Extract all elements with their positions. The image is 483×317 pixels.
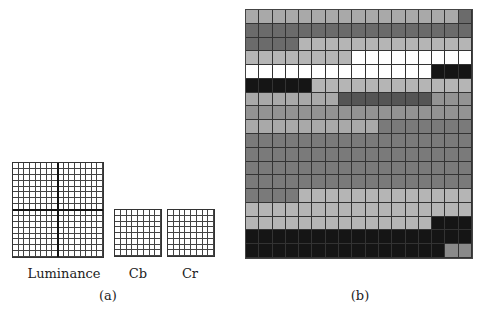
block-cell (273, 79, 286, 93)
block-cell (419, 217, 432, 231)
block-cell (432, 230, 445, 244)
block-cell (326, 217, 339, 231)
block-cell (406, 24, 419, 38)
cr-label: Cr (182, 266, 198, 281)
block-cell (339, 244, 352, 258)
block-cell (326, 230, 339, 244)
block-cell (286, 10, 299, 24)
block-cell (246, 24, 259, 38)
block-cell (339, 93, 352, 107)
block-cell (366, 230, 379, 244)
block-cell (379, 148, 392, 162)
block-cell (406, 230, 419, 244)
block-cell (379, 38, 392, 52)
block-cell (445, 203, 458, 217)
block-cell (459, 65, 472, 79)
block-cell (419, 10, 432, 24)
block-cell (259, 38, 272, 52)
block-cell (366, 93, 379, 107)
block-cell (246, 217, 259, 231)
block-cell (406, 79, 419, 93)
block-cell (259, 148, 272, 162)
block-cell (312, 230, 325, 244)
block-cell (392, 120, 405, 134)
block-cell (286, 175, 299, 189)
block-cell (312, 24, 325, 38)
block-cell (366, 162, 379, 176)
panel-b-caption: (b) (351, 288, 369, 303)
block-cell (406, 148, 419, 162)
block-cell (339, 106, 352, 120)
block-cell (406, 10, 419, 24)
block-cell (286, 24, 299, 38)
block-cell (352, 120, 365, 134)
block-cell (459, 134, 472, 148)
block-cell (246, 244, 259, 258)
block-cell (352, 244, 365, 258)
block-cell (379, 189, 392, 203)
block-cell (326, 244, 339, 258)
block-cell (273, 120, 286, 134)
block-cell (445, 244, 458, 258)
block-cell (339, 175, 352, 189)
block-cell (459, 217, 472, 231)
block-cell (286, 51, 299, 65)
block-cell (459, 24, 472, 38)
block-cell (419, 51, 432, 65)
block-cell (445, 120, 458, 134)
block-cell (286, 244, 299, 258)
block-cell (419, 162, 432, 176)
block-cell (432, 134, 445, 148)
block-cell (246, 162, 259, 176)
block-cell (246, 203, 259, 217)
block-cell (392, 10, 405, 24)
luminance-label: Luminance (28, 266, 101, 281)
block-cell (432, 217, 445, 231)
block-cell (259, 217, 272, 231)
block-cell (326, 148, 339, 162)
block-cell (445, 65, 458, 79)
block-cell (432, 93, 445, 107)
block-cell (339, 230, 352, 244)
block-cell (366, 134, 379, 148)
block-cell (273, 93, 286, 107)
block-cell (299, 106, 312, 120)
block-cell (246, 51, 259, 65)
block-cell (326, 175, 339, 189)
block-cell (392, 217, 405, 231)
block-cell (286, 79, 299, 93)
block-cell (352, 106, 365, 120)
block-cell (406, 189, 419, 203)
block-cell (392, 230, 405, 244)
block-cell (392, 134, 405, 148)
block-cell (445, 189, 458, 203)
block-cell (352, 203, 365, 217)
block-cell (459, 162, 472, 176)
block-cell (432, 120, 445, 134)
block-cell (366, 148, 379, 162)
block-cell (379, 51, 392, 65)
block-cell (419, 189, 432, 203)
block-cell (259, 230, 272, 244)
block-cell (392, 24, 405, 38)
block-cell (326, 189, 339, 203)
block-cell (286, 120, 299, 134)
block-cell (299, 24, 312, 38)
block-cell (352, 38, 365, 52)
block-cell (286, 189, 299, 203)
block-cell (459, 79, 472, 93)
block-cell (432, 148, 445, 162)
block-cell (406, 38, 419, 52)
block-cell (259, 79, 272, 93)
block-cell (352, 230, 365, 244)
block-cell (445, 230, 458, 244)
block-cell (459, 38, 472, 52)
block-cell (246, 189, 259, 203)
block-cell (326, 79, 339, 93)
block-cell (445, 10, 458, 24)
block-cell (246, 230, 259, 244)
block-cell (339, 38, 352, 52)
block-cell (246, 38, 259, 52)
block-cell (432, 244, 445, 258)
block-cell (366, 203, 379, 217)
